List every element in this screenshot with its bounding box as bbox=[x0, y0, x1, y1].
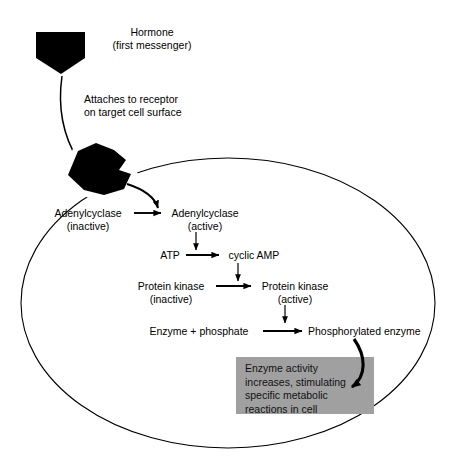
adenylcyclase-inactive-state: (inactive) bbox=[67, 220, 110, 233]
cyclic-amp-label: cyclic AMP bbox=[229, 249, 280, 262]
outcome-text-line2: increases, stimulating bbox=[245, 376, 346, 390]
outcome-text-line4: reactions in cell bbox=[245, 403, 317, 417]
phosphorylated-enzyme-label: Phosphorylated enzyme bbox=[308, 325, 421, 338]
hormone-subtitle: (first messenger) bbox=[113, 39, 192, 52]
hormone-title: Hormone bbox=[130, 26, 173, 39]
adenylcyclase-active-state: (active) bbox=[188, 220, 222, 233]
protein-kinase-inactive-state: (inactive) bbox=[150, 293, 193, 306]
protein-kinase-active-label: Protein kinase bbox=[262, 280, 329, 293]
outcome-text-line1: Enzyme activity bbox=[245, 362, 318, 376]
atp-label: ATP bbox=[160, 249, 180, 262]
outcome-text-line3: specific metabolic bbox=[245, 389, 328, 403]
adenylcyclase-inactive-label: Adenylcyclase bbox=[54, 207, 121, 220]
attach-caption-line1: Attaches to receptor bbox=[84, 93, 178, 106]
protein-kinase-active-state: (active) bbox=[278, 293, 312, 306]
protein-kinase-inactive-label: Protein kinase bbox=[138, 280, 205, 293]
attach-caption-line2: on target cell surface bbox=[84, 106, 181, 119]
diagram-canvas bbox=[0, 0, 457, 470]
hormone-shape bbox=[36, 32, 85, 74]
hormone-to-receptor-arrow bbox=[61, 76, 78, 160]
signal-transduction-diagram: Hormone (first messenger) Attaches to re… bbox=[0, 0, 457, 470]
enzyme-phosphate-label: Enzyme + phosphate bbox=[150, 325, 249, 338]
adenylcyclase-active-label: Adenylcyclase bbox=[171, 207, 238, 220]
